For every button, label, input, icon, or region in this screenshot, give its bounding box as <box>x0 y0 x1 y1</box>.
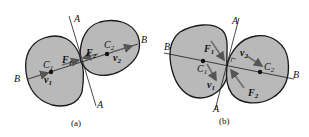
caption-b: (b) <box>219 116 230 126</box>
label-B-left: B <box>164 41 170 52</box>
caption-a: (a) <box>71 118 81 128</box>
label-A-top: A <box>231 15 239 26</box>
body-1 <box>170 25 228 98</box>
panel-a: A A B B C1 C2 F1 F2 v1 v2 (a) <box>14 13 147 128</box>
label-A-top: A <box>73 13 81 24</box>
panel-b: A A B B C1 C2 F1 F2 v1 v2 (b) <box>164 15 299 126</box>
center-of-mass-C2 <box>105 52 109 56</box>
label-B-right: B <box>141 34 147 45</box>
collision-diagram: A A B B C1 C2 F1 F2 v1 v2 (a) A A B B C1… <box>0 0 309 137</box>
label-A-bottom: A <box>96 99 104 110</box>
label-A-bottom: A <box>212 103 220 114</box>
label-B-right: B <box>293 69 299 80</box>
label-B-left: B <box>14 73 20 84</box>
center-of-mass-C2 <box>258 70 262 74</box>
